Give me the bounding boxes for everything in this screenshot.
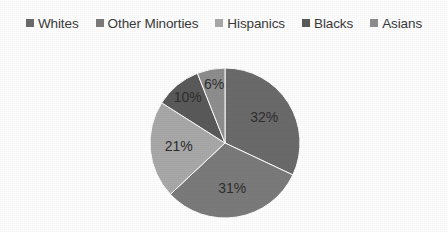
- pie-slice-value-label: 31%: [218, 180, 246, 196]
- pie-slice-value-label: 10%: [174, 89, 202, 105]
- chart-legend: WhitesOther MinortiesHispanicsBlacksAsia…: [0, 12, 448, 34]
- pie-slice-value-label: 21%: [165, 138, 193, 154]
- pie-svg: 32%31%21%10%6%: [0, 34, 448, 232]
- legend-square-marker-icon: [215, 19, 223, 27]
- legend-item-blacks[interactable]: Blacks: [302, 16, 353, 31]
- pie-chart-figure: WhitesOther MinortiesHispanicsBlacksAsia…: [0, 0, 448, 232]
- pie-slice-value-label: 32%: [250, 109, 278, 125]
- legend-item-asians[interactable]: Asians: [370, 16, 422, 31]
- pie-slice-value-label: 6%: [204, 76, 224, 92]
- legend-item-label: Whites: [38, 16, 79, 31]
- legend-item-label: Hispanics: [227, 16, 285, 31]
- legend-item-hispanics[interactable]: Hispanics: [215, 16, 285, 31]
- legend-item-label: Other Minorties: [108, 16, 199, 31]
- legend-item-other-minorties[interactable]: Other Minorties: [96, 16, 199, 31]
- pie-plot-area: 32%31%21%10%6%: [0, 34, 448, 232]
- legend-square-marker-icon: [302, 19, 310, 27]
- legend-item-label: Blacks: [314, 16, 353, 31]
- legend-square-marker-icon: [370, 19, 378, 27]
- legend-square-marker-icon: [26, 19, 34, 27]
- legend-item-whites[interactable]: Whites: [26, 16, 79, 31]
- legend-square-marker-icon: [96, 19, 104, 27]
- legend-item-label: Asians: [382, 16, 422, 31]
